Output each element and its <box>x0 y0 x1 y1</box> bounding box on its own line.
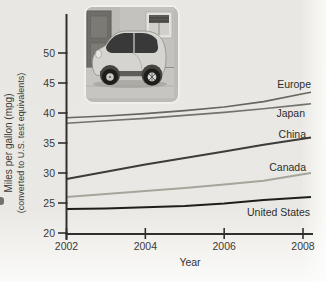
car-headlight <box>96 50 102 58</box>
series-label-japan: Japan <box>276 107 305 119</box>
y-tick-label: 45 <box>43 77 55 89</box>
scan-artifact <box>0 197 4 205</box>
x-tick-label: 2004 <box>134 240 158 252</box>
x-axis-title: Year <box>179 256 201 268</box>
y-axis-title-line1: Miles per gallon (mpg) <box>3 94 14 193</box>
y-tick-label: 35 <box>43 137 55 149</box>
y-tick-label: 50 <box>43 47 55 59</box>
smart-car-photo <box>84 5 180 104</box>
series-label-united-states: United States <box>247 206 310 218</box>
x-tick-label: 2006 <box>212 240 236 252</box>
y-tick-label: 25 <box>43 197 55 209</box>
series-line-japan <box>67 104 312 124</box>
series-label-europe: Europe <box>277 78 311 90</box>
car-illustration <box>86 7 174 98</box>
y-tick-label: 20 <box>43 227 55 239</box>
y-tick-label: 30 <box>43 167 55 179</box>
series-label-canada: Canada <box>269 161 306 173</box>
x-tick-label: 2008 <box>291 240 315 252</box>
y-axis-title-line2: (converted to U.S. test equivalents) <box>16 73 26 214</box>
series-line-canada <box>67 173 312 197</box>
series-label-china: China <box>279 128 307 140</box>
figure-fuel-economy: 202530354045502002200420062008 EuropeJap… <box>0 0 326 282</box>
series-lines <box>67 92 312 209</box>
y-tick-label: 40 <box>43 107 55 119</box>
x-tick-label: 2002 <box>55 240 79 252</box>
